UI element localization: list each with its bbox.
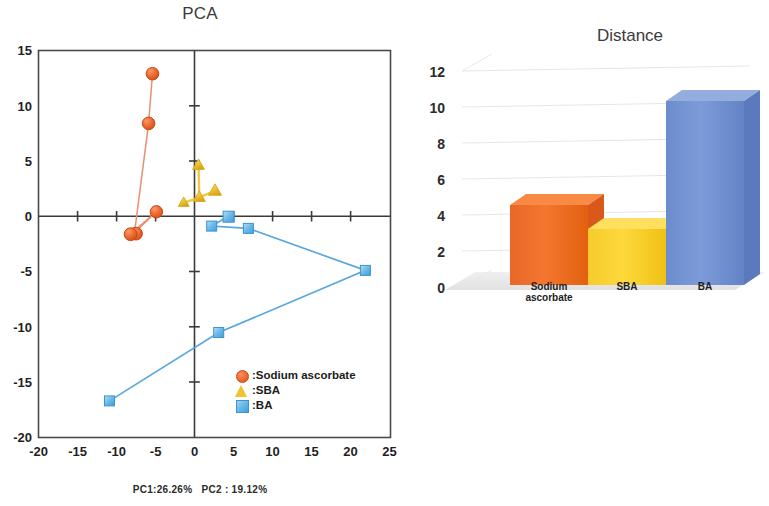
svg-text:20: 20 — [343, 444, 357, 459]
svg-text:-15: -15 — [68, 444, 87, 459]
legend-item-sodium-ascorbate: :Sodium ascorbate — [234, 368, 356, 383]
svg-text:-15: -15 — [13, 375, 32, 390]
svg-text:-10: -10 — [107, 444, 126, 459]
svg-text:15: 15 — [18, 43, 32, 58]
svg-text:6: 6 — [437, 172, 445, 188]
figure-canvas: PCA — [0, 0, 769, 506]
svg-text:-10: -10 — [13, 320, 32, 335]
distance-panel: Distance — [410, 0, 769, 506]
svg-text:-20: -20 — [29, 444, 48, 459]
pca-variance-caption: PC1:26.26% PC2 : 19.12% — [0, 484, 400, 495]
svg-text:8: 8 — [437, 136, 445, 152]
distance-y-tick-labels: 12 10 8 6 4 2 0 — [429, 64, 445, 296]
svg-text:Sodium: Sodium — [531, 281, 568, 292]
bar-ba — [666, 90, 760, 285]
svg-text:2: 2 — [437, 244, 445, 260]
svg-text:0: 0 — [25, 209, 32, 224]
svg-text:4: 4 — [437, 208, 445, 224]
svg-text:SBA: SBA — [616, 281, 637, 292]
pc2-variance: PC2 : 19.12% — [201, 484, 267, 495]
svg-text:25: 25 — [382, 444, 396, 459]
pca-plot-svg: 15 10 5 0 -5 -10 -15 -20 -20 -15 -10 -5 … — [0, 0, 410, 506]
svg-text:15: 15 — [304, 444, 318, 459]
svg-text:-5: -5 — [150, 444, 162, 459]
pc1-variance: PC1:26.26% — [133, 484, 193, 495]
svg-text:-20: -20 — [13, 430, 32, 445]
svg-text:ascorbate: ascorbate — [525, 292, 573, 303]
svg-text:12: 12 — [429, 64, 445, 80]
legend-label-ba: :BA — [251, 398, 272, 413]
svg-text:10: 10 — [429, 100, 445, 116]
svg-text:-5: -5 — [20, 264, 32, 279]
pca-y-tick-labels: 15 10 5 0 -5 -10 -15 -20 — [13, 43, 32, 445]
svg-text:10: 10 — [18, 99, 32, 114]
svg-text:0: 0 — [191, 444, 198, 459]
distance-plot-svg: 12 10 8 6 4 2 0 — [410, 0, 769, 506]
pca-panel: PCA — [0, 0, 410, 506]
svg-text:5: 5 — [230, 444, 237, 459]
triangle-marker-icon — [234, 384, 250, 398]
svg-text:0: 0 — [437, 280, 445, 296]
legend-item-sba: :SBA — [234, 383, 356, 398]
pca-legend: :Sodium ascorbate :SBA :BA — [234, 368, 356, 413]
pca-x-tick-labels: -20 -15 -10 -5 0 5 10 15 20 25 — [29, 444, 397, 459]
circle-marker-icon — [234, 369, 250, 383]
svg-text:BA: BA — [698, 281, 712, 292]
legend-item-ba: :BA — [234, 398, 356, 413]
square-marker-icon — [234, 399, 250, 413]
legend-label-sodium-ascorbate: :Sodium ascorbate — [251, 368, 356, 383]
svg-text:10: 10 — [265, 444, 279, 459]
legend-label-sba: :SBA — [251, 383, 280, 398]
svg-text:5: 5 — [25, 154, 32, 169]
chart-depth-lines — [462, 54, 492, 287]
